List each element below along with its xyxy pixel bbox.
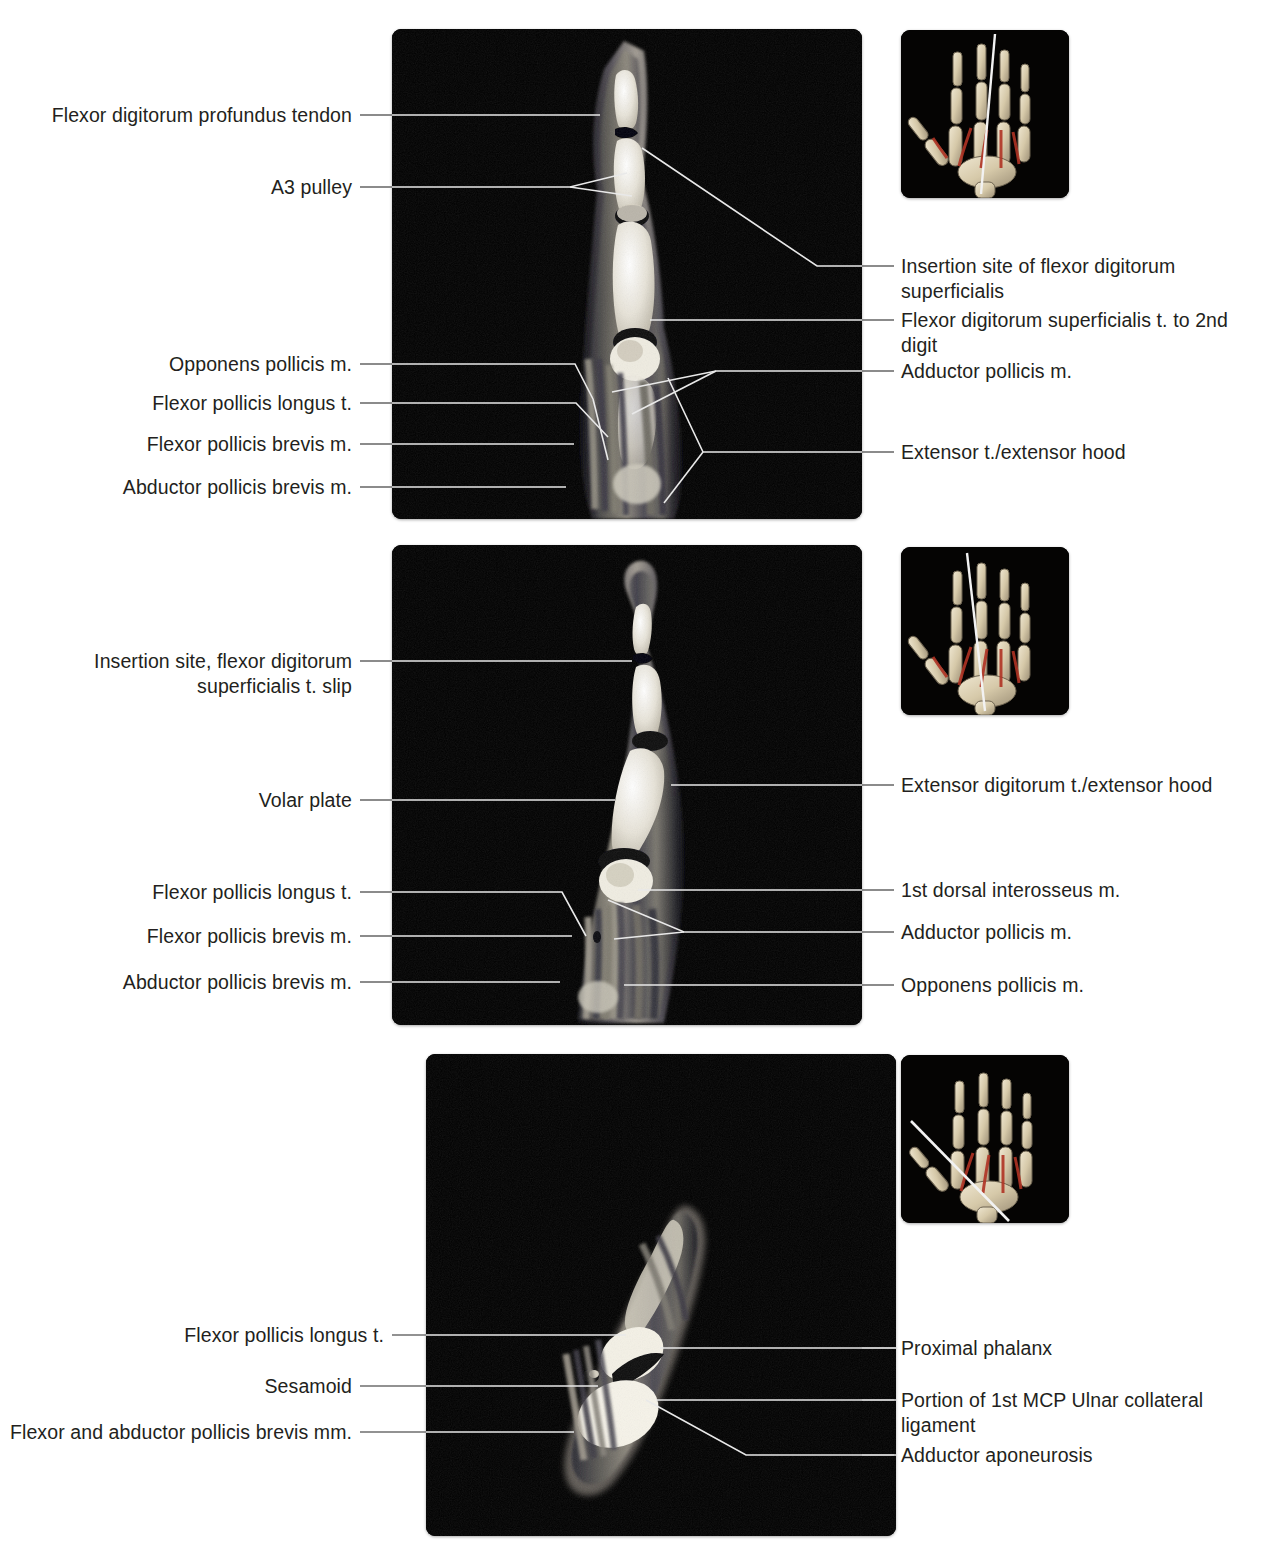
hand-skeleton-3d-icon-1 (901, 30, 1069, 198)
label-abductor-pollicis-brevis-p2: Abductor pollicis brevis m. (0, 970, 352, 995)
label-adductor-aponeurosis: Adductor aponeurosis (901, 1443, 1246, 1468)
label-mcp-ulnar-collateral-ligament: Portion of 1st MCP Ulnar collateral liga… (901, 1388, 1246, 1438)
label-flexor-pollicis-brevis-p2: Flexor pollicis brevis m. (0, 924, 352, 949)
mri-image-panel-2 (392, 545, 862, 1025)
label-flexor-pollicis-longus-p2: Flexor pollicis longus t. (0, 880, 352, 905)
label-flexor-abductor-pollicis-brevis-p3: Flexor and abductor pollicis brevis mm. (0, 1420, 352, 1445)
hand-skeleton-3d-icon-3 (901, 1055, 1069, 1223)
label-proximal-phalanx: Proximal phalanx (901, 1336, 1246, 1361)
hand-skeleton-3d-icon-2 (901, 547, 1069, 715)
label-insertion-fds-slip-p2: Insertion site, flexor digitorum superfi… (0, 649, 352, 699)
label-flexor-pollicis-longus-p1: Flexor pollicis longus t. (0, 391, 352, 416)
label-insertion-fds-p1: Insertion site of flexor digitorum super… (901, 254, 1246, 304)
label-fds-to-2nd-digit: Flexor digitorum superficialis t. to 2nd… (901, 308, 1251, 358)
thumbnail-slice-locator-2 (901, 547, 1069, 715)
label-opponens-pollicis-p2: Opponens pollicis m. (901, 973, 1246, 998)
label-opponens-pollicis-p1: Opponens pollicis m. (0, 352, 352, 377)
thumbnail-slice-locator-3 (901, 1055, 1069, 1223)
label-1st-dorsal-interosseus: 1st dorsal interosseus m. (901, 878, 1246, 903)
label-a3-pulley: A3 pulley (0, 175, 352, 200)
label-flexor-pollicis-longus-p3: Flexor pollicis longus t. (0, 1323, 384, 1348)
mri-slice-sagittal-2 (392, 545, 862, 1025)
mri-image-panel-3 (426, 1054, 896, 1536)
mri-image-panel-1 (392, 29, 862, 519)
figure-root: Flexor digitorum profundus tendon A3 pul… (0, 0, 1269, 1558)
label-sesamoid: Sesamoid (0, 1374, 352, 1399)
label-volar-plate: Volar plate (0, 788, 352, 813)
mri-slice-sagittal-3 (426, 1054, 896, 1536)
label-extensor-digitorum-hood-p2: Extensor digitorum t./extensor hood (901, 773, 1256, 798)
label-flexor-pollicis-brevis-p1: Flexor pollicis brevis m. (0, 432, 352, 457)
mri-slice-sagittal-1 (392, 29, 862, 519)
label-extensor-hood-p1: Extensor t./extensor hood (901, 440, 1246, 465)
label-fdp-tendon: Flexor digitorum profundus tendon (0, 103, 352, 128)
label-abductor-pollicis-brevis-p1: Abductor pollicis brevis m. (0, 475, 352, 500)
label-adductor-pollicis-p1: Adductor pollicis m. (901, 359, 1246, 384)
label-adductor-pollicis-p2: Adductor pollicis m. (901, 920, 1246, 945)
thumbnail-slice-locator-1 (901, 30, 1069, 198)
